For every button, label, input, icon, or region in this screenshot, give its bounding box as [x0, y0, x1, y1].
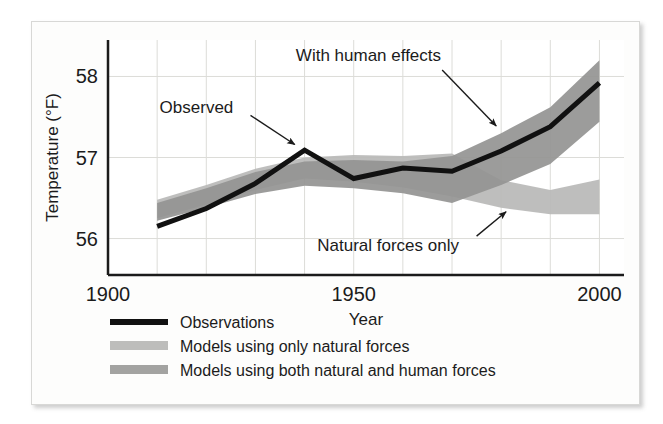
annotation-label-with_human_effects: With human effects	[296, 46, 441, 65]
chart-legend: ObservationsModels using only natural fo…	[110, 314, 496, 379]
legend-swatch-natural_and_human	[110, 365, 168, 374]
legend-label-natural_and_human: Models using both natural and human forc…	[180, 362, 496, 379]
y-tick-label: 58	[76, 65, 98, 87]
legend-label-observations: Observations	[180, 314, 274, 331]
x-tick-label: 1900	[86, 283, 131, 305]
y-tick-label: 56	[76, 228, 98, 250]
annotation-label-natural_forces_only: Natural forces only	[317, 236, 459, 255]
y-tick-label: 57	[76, 147, 98, 169]
x-tick-label: 1950	[331, 283, 376, 305]
legend-label-natural_only: Models using only natural forces	[180, 338, 409, 355]
figure-card: 565758190019502000 ObservedWith human ef…	[31, 21, 640, 405]
x-axis-title: Year	[349, 310, 384, 329]
legend-swatch-natural_only	[110, 341, 168, 350]
y-axis-title: Temperature (°F)	[43, 93, 62, 222]
climate-temperature-chart: 565758190019502000 ObservedWith human ef…	[32, 22, 641, 406]
annotation-label-observed: Observed	[160, 98, 234, 117]
x-tick-label: 2000	[577, 283, 622, 305]
